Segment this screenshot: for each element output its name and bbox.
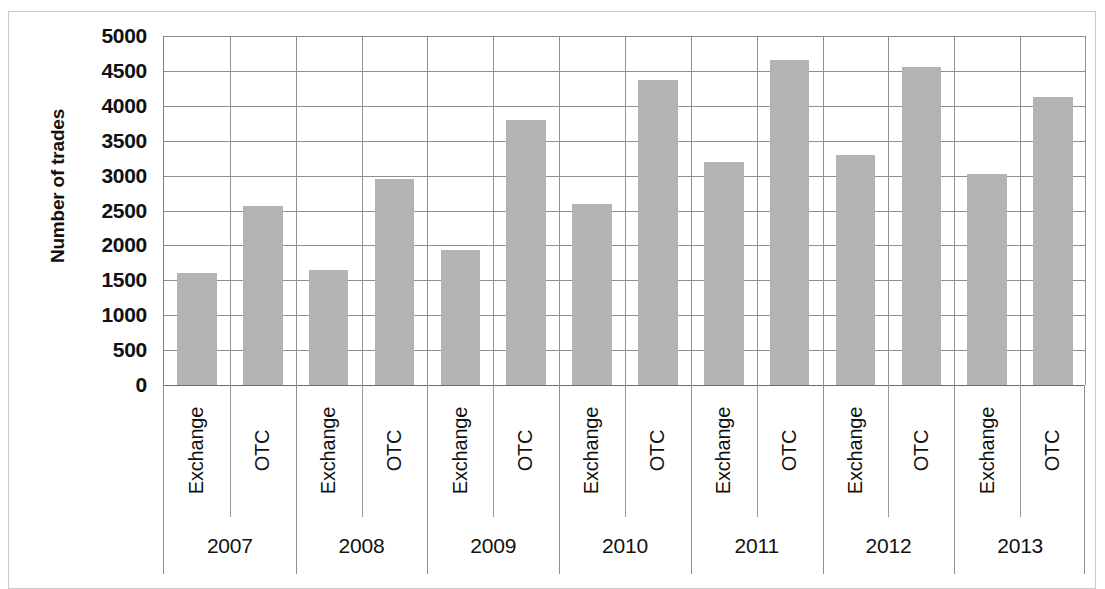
- category-tick-label: Exchange: [185, 406, 208, 493]
- plot-vertical-separator: [757, 36, 758, 385]
- category-tick-exchange: Exchange: [296, 385, 362, 515]
- bar: [572, 204, 612, 385]
- category-inner-separator: [362, 385, 363, 517]
- category-tick-otc: OTC: [493, 385, 559, 515]
- y-tick-label: 4500: [101, 59, 147, 83]
- group-tick-label: 2012: [865, 534, 911, 558]
- bar: [177, 273, 217, 385]
- category-tick-label: OTC: [778, 429, 801, 471]
- category-inner-separator: [493, 385, 494, 517]
- group-tick-label: 2009: [470, 534, 516, 558]
- bar: [309, 270, 349, 385]
- bar: [902, 67, 942, 385]
- group-tick-label: 2007: [207, 534, 253, 558]
- y-tick-label: 2500: [101, 199, 147, 223]
- plot-area: [163, 36, 1085, 385]
- category-tick-exchange: Exchange: [691, 385, 757, 515]
- y-axis-tick-labels: 5000450040003500300025002000150010005000: [60, 36, 155, 385]
- category-tick-exchange: Exchange: [427, 385, 493, 515]
- plot-vertical-separator: [427, 36, 428, 385]
- category-tick-label: OTC: [1042, 429, 1065, 471]
- category-tick-label: Exchange: [712, 406, 735, 493]
- category-tick-exchange: Exchange: [954, 385, 1020, 515]
- category-tick-otc: OTC: [625, 385, 691, 515]
- group-tick-label: 2008: [339, 534, 385, 558]
- category-tick-label: Exchange: [976, 406, 999, 493]
- y-tick-label: 500: [113, 338, 147, 362]
- group-tick-label: 2010: [602, 534, 648, 558]
- bar: [506, 120, 546, 385]
- group-tick-2010: 2010: [559, 517, 691, 574]
- plot-vertical-separator: [559, 36, 560, 385]
- group-tick-2008: 2008: [296, 517, 428, 574]
- plot-vertical-separator: [362, 36, 363, 385]
- plot-vertical-separator: [1020, 36, 1021, 385]
- y-tick-label: 3000: [101, 164, 147, 188]
- category-tick-label: Exchange: [844, 406, 867, 493]
- group-tick-2007: 2007: [164, 517, 296, 574]
- y-tick-label: 0: [136, 373, 147, 397]
- category-inner-separator: [625, 385, 626, 517]
- category-tick-exchange: Exchange: [823, 385, 889, 515]
- group-tick-2009: 2009: [427, 517, 559, 574]
- category-tick-label: OTC: [515, 429, 538, 471]
- bar: [375, 179, 415, 385]
- bar: [967, 174, 1007, 385]
- category-tick-label: OTC: [910, 429, 933, 471]
- category-tick-exchange: Exchange: [164, 385, 230, 515]
- category-tick-label: Exchange: [581, 406, 604, 493]
- category-tick-label: Exchange: [449, 406, 472, 493]
- y-tick-label: 5000: [101, 24, 147, 48]
- category-tick-otc: OTC: [1020, 385, 1086, 515]
- bar: [1033, 97, 1073, 385]
- bar: [770, 60, 810, 385]
- bar: [441, 250, 481, 385]
- category-inner-separator: [230, 385, 231, 517]
- y-tick-label: 1000: [101, 303, 147, 327]
- plot-vertical-separator: [493, 36, 494, 385]
- plot-vertical-separator: [691, 36, 692, 385]
- category-tick-exchange: Exchange: [559, 385, 625, 515]
- category-tick-otc: OTC: [757, 385, 823, 515]
- category-tick-otc: OTC: [888, 385, 954, 515]
- group-tick-2012: 2012: [823, 517, 955, 574]
- category-axis: ExchangeOTCExchangeOTCExchangeOTCExchang…: [163, 385, 1085, 574]
- category-tick-label: OTC: [383, 429, 406, 471]
- plot-vertical-separator: [888, 36, 889, 385]
- y-tick-label: 3500: [101, 129, 147, 153]
- plot-vertical-separator: [954, 36, 955, 385]
- plot-right-edge: [1085, 36, 1086, 385]
- category-inner-separator: [1020, 385, 1021, 517]
- category-tick-label: OTC: [251, 429, 274, 471]
- bar: [836, 155, 876, 385]
- plot-vertical-separator: [296, 36, 297, 385]
- category-inner-separator: [757, 385, 758, 517]
- group-tick-2013: 2013: [954, 517, 1086, 574]
- plot-vertical-separator: [230, 36, 231, 385]
- category-tick-label: OTC: [646, 429, 669, 471]
- bar: [638, 80, 678, 385]
- group-tick-2011: 2011: [691, 517, 823, 574]
- plot-vertical-separator: [823, 36, 824, 385]
- category-tick-label: Exchange: [317, 406, 340, 493]
- group-tick-label: 2011: [735, 534, 779, 558]
- category-tick-otc: OTC: [362, 385, 428, 515]
- category-inner-separator: [888, 385, 889, 517]
- bar: [704, 162, 744, 385]
- y-tick-label: 2000: [101, 233, 147, 257]
- category-tick-otc: OTC: [230, 385, 296, 515]
- plot-vertical-separator: [625, 36, 626, 385]
- y-tick-label: 1500: [101, 268, 147, 292]
- y-tick-label: 4000: [101, 94, 147, 118]
- group-tick-label: 2013: [997, 534, 1043, 558]
- bar: [243, 206, 283, 385]
